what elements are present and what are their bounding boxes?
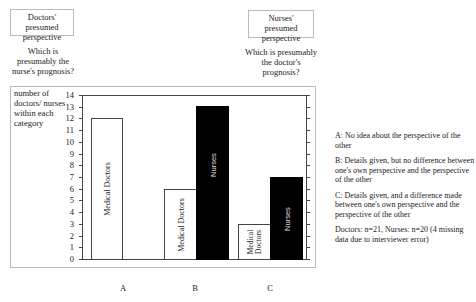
- bar-C-doctors: Medical Doctors: [238, 224, 271, 260]
- legend-C-key: C:: [335, 191, 343, 200]
- category-A-label: A: [113, 283, 133, 293]
- bar-B-nurses-label: Nurses: [208, 153, 217, 177]
- y-tick-mark-left: [79, 107, 83, 108]
- nurses-question-text: Which is presumably the doctor's prognos…: [245, 47, 317, 77]
- legend-item-B: B: Details given, but no difference betw…: [335, 156, 475, 185]
- y-tick-label: 6: [60, 184, 74, 194]
- doctors-perspective-box: Doctors' presumed perspective: [10, 9, 74, 36]
- y-tick-mark-left: [79, 259, 83, 260]
- y-tick-mark-right: [306, 224, 310, 225]
- bar-A-doctors: Medical Doctors: [91, 118, 123, 260]
- y-tick-mark-left: [79, 224, 83, 225]
- y-tick-label: 11: [60, 125, 74, 135]
- y-tick-label: 13: [60, 102, 74, 112]
- y-tick-mark-right: [306, 130, 310, 131]
- doctors-question-text: Which is presumably the nurse's prognosi…: [12, 46, 74, 76]
- bar-A-doctors-label: Medical Doctors: [103, 162, 112, 216]
- y-tick-mark-right: [306, 165, 310, 166]
- nurses-perspective-label: Nurses' presumed perspective: [262, 13, 301, 43]
- legend-note: Doctors: n=21, Nurses: n=20 (4 missing d…: [335, 225, 475, 244]
- legend-item-C: C: Details given, and a difference made …: [335, 191, 475, 220]
- y-tick-mark-right: [306, 236, 310, 237]
- y-axis-title: number of doctors/ nurses within each ca…: [14, 88, 66, 128]
- y-tick-mark-right: [306, 189, 310, 190]
- y-tick-mark-left: [79, 95, 83, 96]
- y-tick-mark-right: [306, 212, 310, 213]
- legend-A-key: A:: [335, 131, 343, 140]
- y-tick-mark-right: [306, 107, 310, 108]
- plot-top-line: [82, 95, 307, 96]
- y-tick-label: 10: [60, 137, 74, 147]
- y-tick-mark-right: [306, 154, 310, 155]
- y-tick-label: 9: [60, 149, 74, 159]
- y-tick-label: 1: [60, 242, 74, 252]
- legend: A: No idea about the perspective of the …: [335, 131, 475, 250]
- y-tick-mark-left: [79, 142, 83, 143]
- category-C-label: C: [260, 283, 280, 293]
- legend-A-text: No idea about the perspective of the oth…: [335, 131, 461, 150]
- doctors-question: Which is presumably the nurse's prognosi…: [10, 46, 76, 76]
- y-tick-label: 2: [60, 231, 74, 241]
- bar-C-doctors-label: Medical Doctors: [247, 227, 263, 257]
- y-tick-mark-right: [306, 200, 310, 201]
- y-tick-mark-left: [79, 165, 83, 166]
- y-tick-mark-left: [79, 247, 83, 248]
- nurses-perspective-box: Nurses' presumed perspective: [248, 10, 314, 38]
- category-B-label: B: [185, 283, 205, 293]
- y-tick-mark-right: [306, 118, 310, 119]
- bar-B-nurses: Nurses: [196, 106, 229, 260]
- y-tick-mark-left: [79, 236, 83, 237]
- sample-size-note: Doctors: n=21, Nurses: n=20 (4 missing d…: [335, 225, 464, 244]
- y-tick-label: 0: [60, 254, 74, 264]
- bar-C-nurses: Nurses: [270, 177, 303, 260]
- y-tick-label: 7: [60, 172, 74, 182]
- legend-B-text: Details given, but no difference between…: [335, 156, 474, 184]
- y-tick-mark-right: [306, 177, 310, 178]
- bar-C-nurses-label: Nurses: [282, 207, 291, 231]
- y-tick-mark-left: [79, 189, 83, 190]
- y-tick-mark-left: [79, 154, 83, 155]
- doctors-perspective-label: Doctors' presumed perspective: [23, 12, 62, 42]
- y-tick-label: 14: [60, 90, 74, 100]
- bar-B-doctors-label: Medical Doctors: [176, 198, 185, 252]
- y-tick-mark-left: [79, 177, 83, 178]
- legend-B-key: B:: [335, 156, 343, 165]
- y-tick-label: 12: [60, 113, 74, 123]
- y-tick-mark-right: [306, 142, 310, 143]
- y-tick-label: 5: [60, 195, 74, 205]
- y-tick-label: 8: [60, 160, 74, 170]
- y-tick-mark-left: [79, 200, 83, 201]
- nurses-question: Which is presumably the doctor's prognos…: [244, 47, 318, 77]
- legend-item-A: A: No idea about the perspective of the …: [335, 131, 475, 150]
- y-axis-title-text: number of doctors/ nurses within each ca…: [14, 88, 65, 128]
- legend-C-text: Details given, and a difference made bet…: [335, 191, 462, 219]
- y-tick-label: 3: [60, 219, 74, 229]
- y-tick-mark-right: [306, 259, 310, 260]
- y-tick-mark-right: [306, 247, 310, 248]
- y-tick-mark-left: [79, 212, 83, 213]
- y-tick-mark-right: [306, 95, 310, 96]
- y-tick-mark-left: [79, 118, 83, 119]
- y-tick-mark-left: [79, 130, 83, 131]
- bar-B-doctors: Medical Doctors: [164, 189, 197, 260]
- y-tick-label: 4: [60, 207, 74, 217]
